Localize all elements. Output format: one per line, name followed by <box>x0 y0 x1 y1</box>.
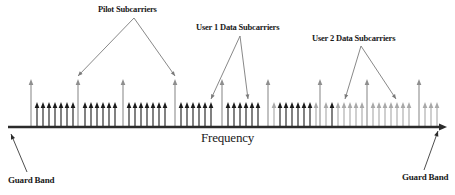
user1-subcarrier-stem <box>179 102 184 127</box>
user1-subcarrier-stem <box>127 102 132 127</box>
user1-leader-line <box>211 36 249 99</box>
user1-subcarrier-stem <box>244 102 249 127</box>
user2-subcarrier-stem <box>314 102 319 127</box>
user1-subcarrier-stem <box>256 102 261 127</box>
guard-band-left-leader <box>11 134 27 172</box>
user2-subcarrier-stem <box>429 102 434 127</box>
guard-band-right-leader <box>424 131 438 170</box>
ofdma-spectrum-figure: Pilot Subcarriers User 1 Data Subcarrier… <box>0 0 455 195</box>
user1-subcarrier-stem <box>232 102 237 127</box>
user2-subcarrier-stem <box>383 102 388 127</box>
guard-band-left-label: Guard Band <box>8 175 54 185</box>
user2-subcarrier-stem <box>354 102 359 127</box>
user1-subcarrier-stem <box>191 102 196 127</box>
user2-data-subcarriers-label: User 2 Data Subcarriers <box>312 33 395 43</box>
user1-subcarrier-stem <box>290 102 295 127</box>
user1-subcarrier-stem <box>101 102 106 127</box>
user1-subcarrier-stem <box>113 102 118 127</box>
user2-subcarrier-stem <box>423 102 428 127</box>
user1-subcarrier-stem <box>65 102 70 127</box>
user1-subcarrier-stem <box>89 102 94 127</box>
user1-subcarrier-stem <box>308 102 313 127</box>
user1-subcarrier-stem <box>203 102 208 127</box>
user1-subcarrier-stem <box>296 102 301 127</box>
user1-subcarrier-stem <box>151 102 156 127</box>
user1-subcarrier-stem <box>250 102 255 127</box>
user1-subcarrier-stem <box>209 102 214 127</box>
user1-subcarrier-stem <box>226 102 231 127</box>
pilot-subcarrier-stem <box>365 79 370 127</box>
user2-subcarrier-stem <box>407 102 412 127</box>
user1-subcarrier-stem <box>71 102 76 127</box>
pilot-subcarrier-stem <box>173 79 178 127</box>
user2-subcarrier-stem <box>377 102 382 127</box>
pilot-subcarrier-stem <box>29 79 34 127</box>
user1-subcarrier-stem <box>133 102 138 127</box>
user1-subcarrier-stem <box>83 102 88 127</box>
user1-subcarrier-stem <box>278 102 283 127</box>
user1-subcarrier-stem <box>185 102 190 127</box>
user1-subcarrier-stem <box>145 102 150 127</box>
pilot-subcarrier-stem <box>266 79 271 127</box>
user1-subcarrier-stem <box>284 102 289 127</box>
user1-subcarrier-stem <box>157 102 162 127</box>
user1-subcarrier-stem <box>41 102 46 127</box>
user1-subcarrier-stem <box>302 102 307 127</box>
user2-subcarrier-stem <box>435 102 440 127</box>
user2-subcarrier-stem <box>389 102 394 127</box>
user2-subcarrier-stem <box>336 102 341 127</box>
user2-subcarrier-stem <box>348 102 353 127</box>
guard-band-right-label: Guard Band <box>402 172 448 182</box>
user1-subcarrier-stem <box>107 102 112 127</box>
pilot-subcarrier-stem <box>76 79 81 127</box>
user2-subcarrier-stem <box>272 102 277 127</box>
user2-subcarrier-stem <box>324 102 329 127</box>
user1-subcarrier-stem <box>95 102 100 127</box>
pilot-subcarrier-stem <box>121 79 126 127</box>
user1-subcarrier-stem <box>35 102 40 127</box>
user2-subcarrier-stem <box>342 102 347 127</box>
pilot-leader-line <box>78 18 175 76</box>
user1-subcarrier-stem <box>59 102 64 127</box>
user1-subcarrier-stem <box>330 102 335 127</box>
user1-subcarrier-stem <box>163 102 168 127</box>
user1-subcarrier-group <box>35 102 335 127</box>
user2-subcarrier-stem <box>360 102 365 127</box>
user2-subcarrier-stem <box>371 102 376 127</box>
pilot-subcarrier-stem <box>417 79 422 127</box>
user2-subcarrier-stem <box>395 102 400 127</box>
user2-subcarrier-stem <box>401 102 406 127</box>
user1-subcarrier-stem <box>238 102 243 127</box>
user2-leader-line <box>344 46 396 99</box>
pilot-subcarriers-label: Pilot Subcarriers <box>98 4 157 14</box>
pilot-subcarrier-stem <box>318 79 323 127</box>
user1-subcarrier-stem <box>47 102 52 127</box>
user1-subcarrier-stem <box>53 102 58 127</box>
frequency-axis-label: Frequency <box>201 130 254 146</box>
user1-subcarrier-stem <box>197 102 202 127</box>
pilot-subcarrier-stem <box>220 79 225 127</box>
user1-subcarrier-stem <box>139 102 144 127</box>
user1-data-subcarriers-label: User 1 Data Subcarriers <box>196 22 279 32</box>
